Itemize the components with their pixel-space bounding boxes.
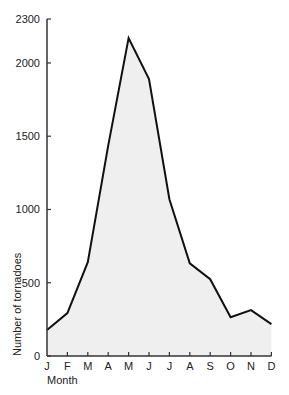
x-tick-label: S bbox=[207, 360, 214, 372]
x-tick-label: A bbox=[105, 360, 113, 372]
y-axis-title: Number of tornadoes bbox=[11, 252, 23, 356]
x-tick-label: N bbox=[247, 360, 255, 372]
x-tick-label: J bbox=[146, 360, 152, 372]
x-tick-label: J bbox=[44, 360, 50, 372]
area-fill bbox=[47, 38, 271, 356]
x-tick-label: F bbox=[64, 360, 71, 372]
y-tick-label: 0 bbox=[34, 350, 40, 362]
y-tick-label: 2000 bbox=[16, 57, 40, 69]
x-tick-label: J bbox=[167, 360, 173, 372]
x-tick-label: A bbox=[186, 360, 194, 372]
x-tick-label: M bbox=[83, 360, 92, 372]
y-tick-label: 500 bbox=[22, 277, 40, 289]
area-series bbox=[47, 38, 271, 356]
y-tick-label: 1000 bbox=[16, 203, 40, 215]
x-tick-label: D bbox=[267, 360, 275, 372]
x-tick-label: M bbox=[124, 360, 133, 372]
tornado-monthly-chart: 05001000150020002300 JFMAMJJASOND Number… bbox=[0, 0, 289, 395]
x-tick-label: O bbox=[226, 360, 235, 372]
x-axis-title: Month bbox=[47, 374, 78, 386]
y-tick-label: 2300 bbox=[16, 13, 40, 25]
y-tick-label: 1500 bbox=[16, 130, 40, 142]
